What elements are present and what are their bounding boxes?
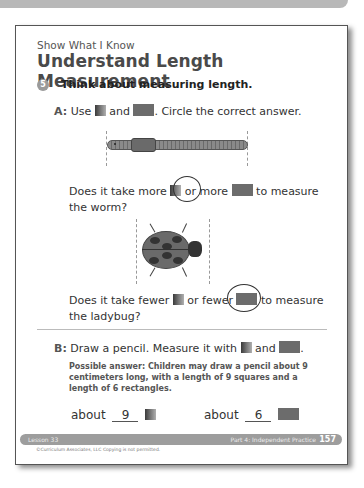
q1-text-end: to measure	[256, 185, 319, 198]
and-text: and	[109, 105, 130, 118]
answer-circle-rectangle	[227, 284, 261, 312]
question-ladybug: Does it take fewer or fewer to measure	[69, 293, 324, 307]
worm-eye	[114, 143, 116, 145]
about-label: about	[71, 408, 106, 422]
unit-rectangle-icon[interactable]	[232, 184, 253, 196]
top-band	[0, 0, 348, 8]
answer-circle-square	[173, 176, 201, 202]
part-label: Part 4: Independent Practice	[231, 434, 316, 445]
question-prompt: Think about measuring length.	[61, 78, 253, 91]
worm-illustration	[106, 131, 266, 166]
copyright-notice: ©Curriculum Associates, LLC Copying is n…	[36, 447, 160, 452]
instruction-text: . Circle the correct answer.	[154, 105, 301, 118]
unit-square-icon	[95, 105, 106, 116]
about-label: about	[204, 408, 239, 422]
worm-body	[107, 140, 248, 150]
measure-guide-right	[247, 131, 248, 166]
worm-band	[131, 138, 156, 152]
use-text: Use	[71, 105, 92, 118]
lesson-label: Lesson 33	[28, 434, 58, 445]
ladybug-spot	[162, 243, 172, 250]
possible-answer-note: Possible answer: Children may draw a pen…	[69, 361, 319, 394]
and-text: and	[255, 342, 276, 355]
measure-guide-left	[136, 219, 137, 284]
square-measurement: about 9	[71, 408, 156, 422]
question-ladybug-line2: the ladybug?	[69, 310, 141, 323]
unit-square-icon	[145, 409, 156, 420]
unit-rectangle-icon	[133, 104, 154, 116]
section-divider	[37, 329, 327, 330]
ladybug-leg	[182, 267, 187, 276]
question-worm-line2: the worm?	[69, 201, 127, 214]
page-footer: Lesson 33 Part 4: Independent Practice 1…	[20, 434, 342, 445]
unit-rectangle-icon	[278, 408, 299, 420]
q2-text-end: to measure	[261, 294, 324, 307]
ladybug-spot	[162, 252, 172, 259]
part-a-label: A:	[54, 105, 67, 118]
ladybug-head	[188, 241, 202, 257]
ladybug-body	[142, 231, 190, 269]
unit-square-icon	[241, 342, 252, 353]
period: .	[300, 342, 304, 355]
part-b-instruction: B: Draw a pencil. Measure it with and .	[54, 341, 304, 355]
page-number: 157	[319, 434, 336, 445]
ladybug-leg	[182, 223, 187, 232]
q2-text-start: Does it take fewer	[69, 294, 169, 307]
ladybug-spot	[173, 257, 183, 264]
ladybug-spot	[150, 237, 160, 244]
rectangle-measurement: about 6	[204, 408, 299, 422]
part-b-text: Draw a pencil. Measure it with	[70, 342, 237, 355]
measure-guide-right	[209, 219, 210, 284]
ladybug-spot	[172, 236, 182, 243]
ladybug-leg	[150, 267, 156, 276]
ladybug-leg	[150, 223, 156, 232]
unit-square-icon[interactable]	[173, 294, 184, 305]
ladybug-spot	[149, 257, 159, 264]
question-number-badge: 5	[37, 79, 49, 91]
square-count-blank[interactable]: 9	[112, 409, 138, 422]
unit-rectangle-icon	[279, 341, 300, 353]
rectangle-count-blank[interactable]: 6	[245, 409, 271, 422]
part-b-label: B:	[54, 342, 67, 355]
workbook-page: Show What I Know Understand Length Measu…	[15, 25, 348, 465]
ladybug-illustration	[136, 219, 211, 284]
part-a-instruction: A: Use and . Circle the correct answer.	[54, 104, 302, 118]
measure-guide-left	[106, 131, 107, 166]
section-kicker: Show What I Know	[37, 39, 135, 51]
q1-text-start: Does it take more	[69, 185, 167, 198]
